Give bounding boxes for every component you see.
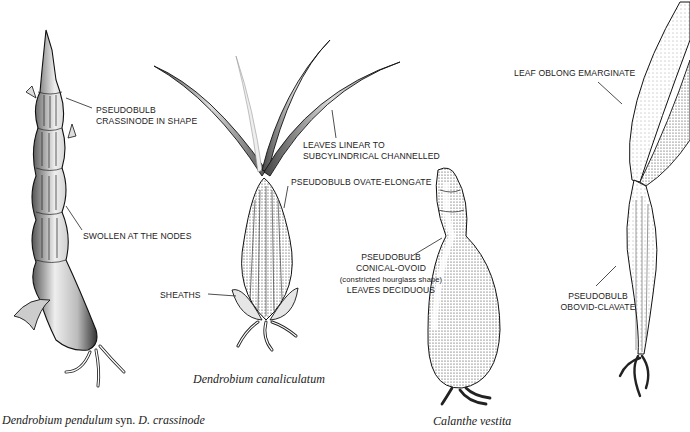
label-line: SUBCYLINDRICAL CHANNELLED (303, 151, 440, 162)
label-line: CRASSINODE IN SHAPE (96, 116, 197, 127)
caption-synonym: D. crassinode (138, 413, 205, 427)
dendrobium-pendulum-drawing (14, 30, 124, 386)
label-line: PSEUDOBULB (323, 252, 459, 263)
illustration-canvas (0, 0, 690, 432)
label-line: LEAVES LINEAR TO (303, 140, 440, 151)
label-line: OBOVID-CLAVATE (548, 302, 648, 313)
label-swollen-nodes: SWOLLEN AT THE NODES (83, 231, 192, 242)
label-pseudobulb-obovid: PSEUDOBULB OBOVID-CLAVATE (548, 291, 648, 313)
caption-dendrobium-canaliculatum: Dendrobium canaliculatum (193, 372, 325, 387)
dendrobium-canaliculatum-drawing (154, 40, 400, 350)
label-line: PSEUDOBULB (548, 291, 648, 302)
label-sheaths: SHEATHS (160, 290, 201, 301)
label-line: CONICAL-OVOID (323, 263, 459, 274)
clavate-orchid-drawing (596, 2, 690, 396)
caption-calanthe-vestita: Calanthe vestita (433, 414, 511, 429)
caption-syn: syn. (116, 413, 136, 427)
label-pseudobulb-conical: PSEUDOBULB CONICAL-OVOID (constricted ho… (323, 252, 459, 296)
label-leaf-oblong: LEAF OBLONG EMARGINATE (514, 68, 635, 79)
label-leaves-linear: LEAVES LINEAR TO SUBCYLINDRICAL CHANNELL… (303, 140, 440, 162)
caption-genus: Dendrobium pendulum (2, 413, 113, 427)
caption-dendrobium-pendulum: Dendrobium pendulum syn. D. crassinode (2, 413, 205, 428)
label-pseudobulb-ovate: PSEUDOBULB OVATE-ELONGATE (291, 177, 432, 188)
label-line: LEAVES DECIDUOUS (323, 285, 459, 296)
label-pseudobulb-crassinode: PSEUDOBULB CRASSINODE IN SHAPE (96, 105, 197, 127)
label-line: (constricted hourglass shape) (323, 274, 459, 285)
label-line: PSEUDOBULB (96, 105, 197, 116)
